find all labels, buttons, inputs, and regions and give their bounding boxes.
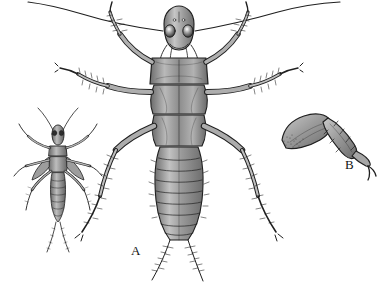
cercus-right	[185, 240, 204, 281]
cercus-left	[152, 240, 173, 280]
head	[160, 6, 198, 64]
antenna-right	[195, 2, 340, 31]
hindleg-right	[204, 126, 283, 241]
pronotum	[150, 58, 208, 84]
abdomen	[149, 147, 209, 240]
panel-label-a: A	[131, 243, 141, 259]
panel-label-b: B	[345, 157, 354, 173]
metanotum	[152, 115, 205, 146]
foreleg-right	[206, 2, 251, 62]
midleg-left	[55, 63, 151, 94]
hindleg-left	[75, 126, 154, 241]
insect-illustration	[0, 0, 379, 288]
foreleg-left	[107, 2, 152, 62]
midleg-right	[207, 63, 303, 94]
nymph-small-whole-body	[14, 108, 102, 252]
figure-plate: A B	[0, 0, 379, 288]
leg-detail	[282, 114, 376, 180]
mesonotum	[151, 85, 207, 114]
antenna-left	[28, 2, 163, 31]
